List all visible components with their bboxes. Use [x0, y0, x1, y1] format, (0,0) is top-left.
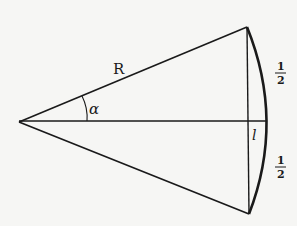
radius-label: R — [113, 60, 125, 78]
sector-diagram: R α l 1 2 1 2 — [0, 0, 297, 226]
upper-half-fraction: 1 2 — [275, 60, 286, 87]
lower-half-fraction: 1 2 — [275, 154, 286, 181]
radius-line-lower — [19, 122, 249, 214]
lower-half-numerator: 1 — [277, 154, 285, 167]
angle-label: α — [89, 100, 99, 118]
upper-half-numerator: 1 — [277, 60, 285, 73]
lower-half-denominator: 2 — [277, 168, 285, 181]
radius-line-upper — [19, 27, 247, 122]
chord-line — [247, 27, 249, 214]
upper-half-denominator: 2 — [277, 74, 285, 87]
sagitta-label: l — [252, 127, 256, 143]
angle-arc — [82, 96, 87, 121]
